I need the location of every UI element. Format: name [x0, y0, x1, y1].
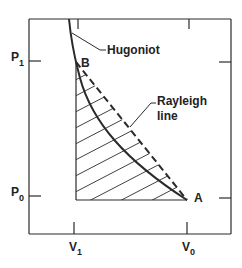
hugoniot-label: Hugoniot — [107, 43, 160, 57]
shock-pv-diagram: Hugoniot Rayleigh line B A P1 P0 V1 V0 — [0, 0, 242, 268]
rayleigh-leader — [130, 103, 156, 127]
point-b-label: B — [81, 56, 90, 70]
v1-label: V1 — [69, 240, 82, 257]
point-a-label: A — [194, 191, 203, 205]
p0-label: P0 — [11, 185, 24, 203]
v0-label: V0 — [182, 240, 195, 257]
rayleigh-label-line2: line — [157, 109, 178, 123]
rayleigh-label-line1: Rayleigh — [157, 94, 207, 108]
p1-label: P1 — [11, 50, 24, 68]
hugoniot-leader — [72, 33, 106, 50]
